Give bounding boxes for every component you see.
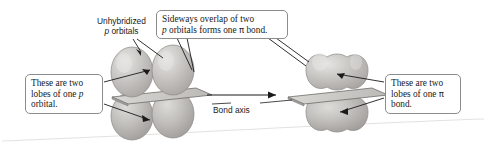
callout-p-orbital-lobes: These are two lobes of one p orbital. [25, 74, 103, 114]
leader-top-callout-right-a [268, 38, 306, 66]
callout-right-line3: bond. [391, 99, 412, 109]
label-unhybridized-line2: orbitals [109, 26, 138, 36]
structure-left-p-orbitals [111, 45, 212, 140]
callout-pi-bond-lobes: These are two lobes of one π bond. [385, 74, 461, 114]
leader-top-callout-right-b [276, 38, 309, 62]
callout-top-line2-end: bond. [244, 25, 267, 35]
callout-left-p-italic: p [79, 89, 84, 99]
label-bond-axis: Bond axis [213, 105, 250, 115]
structure-right-pi-bond [288, 53, 388, 132]
lobe-highlight-pi-upper [312, 53, 328, 71]
pi-symbol-right: π [439, 89, 444, 99]
callout-top-line2-mid: orbitals forms one [167, 25, 239, 35]
page-baseline [2, 119, 484, 141]
lobe-highlight-pi-upper-right [350, 54, 362, 70]
p-orbital-lobe-upper-right [152, 45, 194, 95]
callout-left-line2: lobes of one [31, 89, 79, 99]
callout-sideways-overlap: Sideways overlap of two p orbitals forms… [156, 10, 288, 39]
callout-right-line1: These are two [391, 78, 443, 88]
callout-right-line2: lobes of one [391, 89, 439, 99]
callout-left-line1: These are two [31, 78, 83, 88]
lobe-highlight-upper-left [116, 53, 132, 73]
callout-top-line1: Sideways overlap of two [162, 14, 254, 24]
callout-left-line3: orbital. [31, 99, 58, 109]
pi-bond-diagram: Sideways overlap of two p orbitals forms… [0, 0, 486, 149]
lobe-highlight-upper-right [158, 51, 174, 71]
label-unhybridized-line1: Unhybridized [97, 16, 146, 26]
label-unhybridized-p-orbitals: Unhybridized p orbitals [97, 16, 146, 36]
leader-bond-axis-left [212, 103, 231, 104]
leader-bond-axis-right [260, 100, 292, 103]
